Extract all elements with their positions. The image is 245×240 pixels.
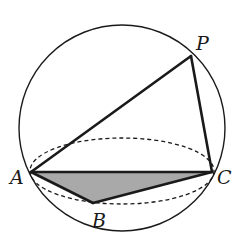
- edge-pa: [31, 56, 191, 172]
- vertex-label-p: P: [195, 32, 210, 54]
- vertex-label-c: C: [217, 166, 232, 188]
- vertex-label-b: B: [91, 209, 106, 231]
- vertex-label-a: A: [8, 166, 24, 188]
- sphere-circle: [19, 25, 225, 231]
- base-triangle-abc: [31, 172, 212, 203]
- geometry-diagram: P A B C: [0, 0, 245, 240]
